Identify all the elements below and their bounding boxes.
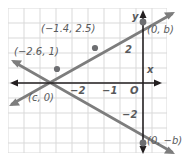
data-point-0-negb (140, 140, 147, 147)
origin-label: O (130, 86, 139, 96)
label-y-intercept-positive: (0, b) (147, 25, 174, 35)
data-point-neg1_4-2_5 (92, 45, 98, 51)
label-point-neg1_4-2_5: (−1.4, 2.5) (41, 24, 95, 34)
label-y-intercept-negative: (0, −b) (147, 136, 182, 146)
label-point-neg2_6-1: (−2.6, 1) (14, 47, 59, 57)
x-axis-label: x (147, 65, 153, 75)
label-point-c-0: (c, 0) (28, 93, 54, 103)
y-axis-label: y (132, 12, 139, 22)
ytick-label-neg2: −2 (122, 110, 137, 120)
data-point-neg2_6-1 (54, 66, 60, 72)
xtick-label-neg2: −2 (70, 86, 85, 96)
graph-figure: (−1.4, 2.5) (−2.6, 1) (c, 0) (0, b) (0, … (0, 0, 190, 165)
data-point-0-b (140, 19, 147, 26)
xtick-label-neg1: −1 (102, 86, 117, 96)
ytick-label-2: 2 (125, 45, 132, 55)
